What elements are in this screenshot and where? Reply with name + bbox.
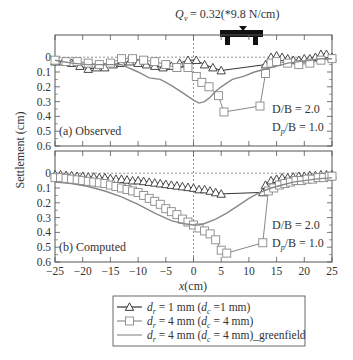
x-tick-label: −25 <box>46 265 64 277</box>
square-marker <box>212 236 220 244</box>
square-marker <box>262 69 270 77</box>
square-marker <box>214 92 222 100</box>
y-tick-label: 0.1 <box>37 66 52 78</box>
settlement-chart: Q v = 0.32(*9.8 N/cm) 00.10.20.30.40.50.… <box>0 0 353 360</box>
square-marker <box>259 239 267 247</box>
footing-leg-right <box>253 36 258 45</box>
square-marker <box>106 59 114 67</box>
y-tick-label: 0.4 <box>37 110 52 122</box>
square-marker <box>328 172 336 180</box>
square-marker <box>84 59 92 67</box>
square-marker <box>317 56 325 64</box>
y-tick-label: 0.4 <box>37 226 52 238</box>
y-tick-label: 0 <box>45 51 51 63</box>
square-marker <box>223 249 231 257</box>
x-tick-label: −10 <box>129 265 147 277</box>
panel-label: (b) Computed <box>59 240 126 254</box>
triangle-marker <box>200 60 208 68</box>
square-marker <box>205 83 213 91</box>
annotation-dpb: Dp/B = 1.0 <box>272 120 324 136</box>
annotation-db: D/B = 2.0 <box>272 218 320 232</box>
triangle-marker <box>209 63 217 71</box>
load-label: Q v = 0.32(*9.8 N/cm) <box>175 7 279 23</box>
y-tick-label: 0.3 <box>37 96 52 108</box>
legend: dr = 1 mm (dc =1 mm)dr = 4 mm (dc = 4 mm… <box>113 296 306 346</box>
load-label-q: Q <box>175 7 184 21</box>
square-marker-icon <box>126 317 134 325</box>
x-tick-label: 0 <box>191 265 197 277</box>
x-axis-label: x(cm) <box>178 279 207 293</box>
square-marker <box>151 58 159 66</box>
x-tick-label: −20 <box>74 265 92 277</box>
x-tick-label: 20 <box>299 265 311 277</box>
x-tick-label: −15 <box>101 265 119 277</box>
panel-top: 00.10.20.30.40.50.6(a) ObservedD/B = 2.0… <box>37 35 337 152</box>
square-marker <box>184 64 192 72</box>
square-marker <box>117 55 125 63</box>
annotation-db: D/B = 2.0 <box>272 102 320 116</box>
y-tick-label: 0.5 <box>37 125 52 137</box>
square-marker <box>129 55 137 63</box>
y-tick-label: 0.2 <box>37 81 52 93</box>
y-tick-label: 0.3 <box>37 212 52 224</box>
y-tick-label: 0.1 <box>37 182 52 194</box>
x-tick-label: 15 <box>271 265 283 277</box>
square-marker <box>140 56 148 64</box>
y-axis-label: Settlement (cm) <box>13 112 27 189</box>
panel-label: (a) Observed <box>59 124 121 138</box>
x-tick-label: 10 <box>243 265 255 277</box>
square-marker <box>256 102 264 110</box>
x-tick-label: 5 <box>218 265 224 277</box>
x-tick-label: 25 <box>326 265 338 277</box>
x-tick-label: −5 <box>160 265 172 277</box>
y-tick-label: 0.5 <box>37 241 52 253</box>
square-marker <box>273 58 281 66</box>
y-tick-label: 0.6 <box>37 140 52 152</box>
annotation-dpb: Dp/B = 1.0 <box>272 236 324 252</box>
square-marker <box>162 61 170 69</box>
load-label-text: = 0.32(*9.8 N/cm) <box>190 7 279 21</box>
footing-leg-left <box>225 36 230 45</box>
y-tick-label: 0 <box>45 167 51 179</box>
square-marker <box>220 108 228 116</box>
square-marker <box>173 64 181 72</box>
footing-plate <box>220 30 263 37</box>
y-tick-label: 0.2 <box>37 197 52 209</box>
load-label-sub: v <box>184 14 188 23</box>
panel-bottom: 00.10.20.30.40.50.6−25−20−15−10−50510152… <box>37 151 338 277</box>
